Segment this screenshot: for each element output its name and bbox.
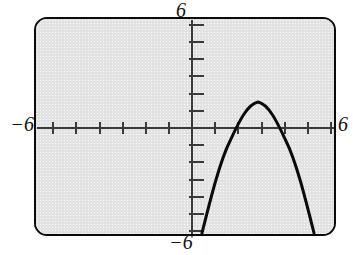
x-axis-max-label: 6 — [338, 114, 353, 134]
calculator-graph-figure: 6 −6 −6 6 — [0, 0, 353, 255]
calculator-screen-frame — [34, 17, 336, 236]
parabola-curve — [202, 102, 314, 233]
y-axis-min-label: −6 — [160, 232, 202, 252]
y-axis-max-label: 6 — [168, 0, 194, 20]
graph-plot-area — [36, 19, 336, 236]
x-axis-min-label: −6 — [2, 114, 34, 134]
